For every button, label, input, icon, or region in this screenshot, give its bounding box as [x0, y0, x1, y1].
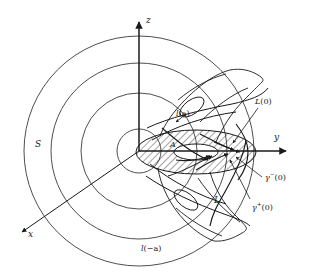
axis-label-z: z — [146, 16, 151, 25]
upper-tube-ridge — [200, 88, 248, 122]
curve-label-l-a: l(a) — [176, 110, 190, 118]
annulus-inner-ellipse — [174, 144, 218, 160]
curve-label-l-minus-a: l(−a) — [141, 245, 161, 253]
curve-label-l-a-arg: (a) — [179, 109, 190, 118]
axis-label-x: x — [28, 230, 33, 239]
figure-drawing — [0, 0, 313, 280]
axis-lines-thin — [22, 151, 139, 232]
gamma-minus-label: γ−(0) — [265, 172, 286, 182]
upper-tube-inner-fold — [178, 74, 226, 100]
x-axis — [22, 151, 139, 232]
curve-label-l-minus-a-arg: (−a) — [144, 244, 162, 253]
upper-tube-outline-left — [160, 70, 230, 136]
axis-label-y: y — [274, 133, 279, 142]
figure-container: z y x S A l(a) l(−a) L L(0) γ−(0) γ+(0) — [0, 0, 313, 280]
gamma-plus-label: γ+(0) — [252, 202, 273, 212]
gamma-plus-arg: (0) — [262, 203, 273, 212]
upper-tube-cap — [230, 69, 263, 82]
manifold-label-L0: L(0) — [255, 98, 272, 106]
sphere-family-label: S — [35, 140, 41, 149]
manifold-label-L0-arg: (0) — [260, 97, 271, 106]
annulus-region-label: A — [170, 141, 176, 149]
lower-tube-inner-fold — [176, 208, 222, 236]
gamma-minus-arg: (0) — [275, 173, 286, 182]
manifold-label-L: L — [214, 196, 220, 205]
lower-tube-outline-left — [158, 168, 214, 241]
